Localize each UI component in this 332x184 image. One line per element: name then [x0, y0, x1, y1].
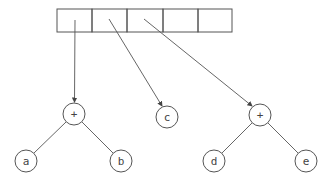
- node-plus2: +: [249, 104, 271, 126]
- node-label: d: [211, 155, 218, 168]
- edge-plus2-e: [268, 123, 298, 153]
- node-label: a: [23, 155, 30, 168]
- tree-nodes: + a b c + d e: [15, 103, 317, 172]
- node-b: b: [110, 150, 132, 172]
- edge-plus2-d: [222, 123, 252, 153]
- node-label: e: [303, 155, 310, 168]
- node-label: +: [71, 108, 78, 121]
- node-label: b: [118, 155, 125, 168]
- node-c: c: [156, 106, 178, 128]
- diagram-canvas: + a b c + d e: [0, 0, 332, 184]
- array-cell-3: [163, 9, 198, 32]
- pointer-array: [57, 9, 232, 32]
- node-label: c: [164, 111, 171, 124]
- node-label: +: [257, 109, 264, 122]
- array-cell-2: [127, 9, 163, 32]
- pointer-arrow-cell0-plus1: [75, 20, 76, 102]
- edge-plus1-a: [34, 122, 66, 153]
- edge-plus1-b: [82, 122, 113, 153]
- node-a: a: [15, 150, 37, 172]
- array-cell-4: [198, 9, 232, 32]
- node-plus1: +: [63, 103, 85, 125]
- node-d: d: [203, 150, 225, 172]
- node-e: e: [295, 150, 317, 172]
